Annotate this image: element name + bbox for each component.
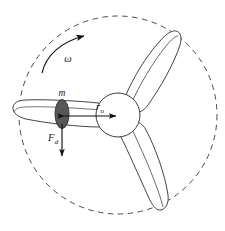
label-omega: ω [64, 53, 71, 64]
label-mass: m [59, 88, 66, 98]
label-radius-subscript: u [100, 107, 104, 115]
rotor-hub [96, 93, 140, 137]
label-force: Fd [47, 132, 59, 146]
rotor-unbalance-figure: ω m ru Fd [0, 0, 225, 231]
rotation-direction-arrow [42, 36, 84, 73]
rotor-diagram-canvas: ω m ru Fd [0, 0, 225, 231]
label-force-subscript: d [55, 138, 59, 146]
